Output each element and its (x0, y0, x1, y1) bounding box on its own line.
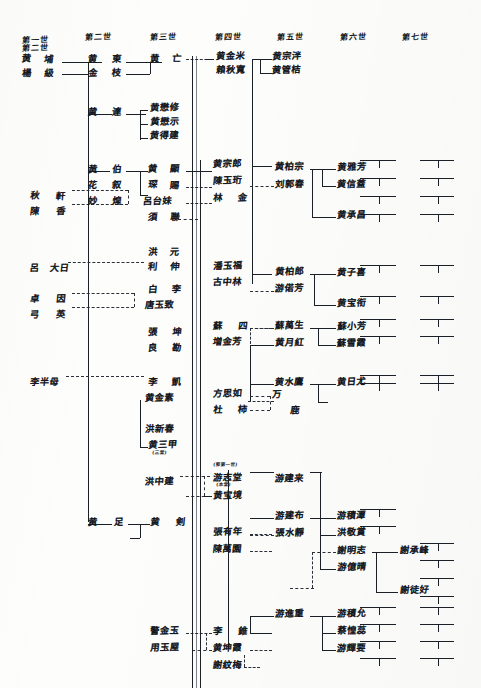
branch-stub-bar (420, 319, 454, 320)
annotation-note: (本堂) (216, 484, 231, 489)
name-cell: 黄懋修 (150, 103, 180, 113)
name-cell: 黄水鷹 (274, 378, 304, 388)
name-cell: 英 (56, 310, 67, 319)
name-cell: 杜 (213, 406, 224, 415)
branch-stub-tick (438, 624, 439, 632)
name-cell: 黄 (149, 54, 160, 63)
branch-stub-bar (360, 319, 396, 320)
name-cell: 卓 (30, 295, 41, 304)
name-cell: 凱 (171, 378, 182, 388)
branch-stub-tick (438, 214, 439, 222)
branch-stub-tick (438, 375, 439, 383)
name-cell: 游積潭 (336, 511, 366, 521)
name-cell: 張有年 (213, 527, 243, 537)
branch-stub (420, 641, 454, 650)
branch-stub-bar (420, 560, 454, 561)
name-cell: 游志堂 (212, 473, 242, 483)
name-cell: 張 (148, 328, 159, 337)
name-cell: 黄 (87, 55, 98, 64)
name-cell: 陳 (29, 207, 40, 216)
branch-stub-tick (438, 196, 439, 204)
branch-stub (420, 607, 454, 616)
branch-stub (420, 196, 454, 205)
name-cell: 大日 (49, 264, 69, 273)
name-cell: 黄宝衔 (337, 299, 367, 309)
name-cell: 黄宗郎 (212, 159, 242, 169)
name-cell: 弓 (29, 311, 40, 320)
name-cell: 黄柏郎 (275, 267, 305, 277)
generation-header: 第七世 (402, 32, 430, 41)
name-cell: 黄信蓋 (336, 180, 366, 189)
name-cell: 洪敬賞 (336, 528, 366, 538)
genealogy-chart-sheet: 第一世第二世第二世第三世第四世第五世第六世第七世 (0, 0, 481, 688)
name-cell: 蘇 (213, 322, 224, 331)
name-cell: 顯 (170, 165, 181, 174)
name-cell: 利 (147, 263, 158, 272)
name-cell: 黄三甲 (148, 440, 178, 450)
name-cell: 増金芳 (212, 337, 242, 347)
name-cell: 黄管桔 (271, 65, 301, 75)
name-cell: 刘郭春 (275, 180, 305, 190)
name-cell: 白 (148, 285, 159, 295)
name-cell: 黄懋示 (150, 118, 180, 127)
branch-stub-bar (420, 641, 454, 642)
branch-stub-tick (438, 560, 439, 568)
branch-stub (420, 624, 454, 633)
generation-header: 第二世 (85, 32, 113, 41)
branch-stub-tick (379, 296, 380, 304)
name-cell: 游積允 (337, 609, 367, 619)
name-cell: 唐玉致 (144, 301, 174, 311)
name-cell: 級 (44, 69, 55, 78)
branch-stub-tick (438, 383, 439, 391)
branch-stub-bar (420, 658, 454, 659)
name-cell: 元 (169, 248, 180, 257)
name-cell: 游進重 (274, 609, 304, 619)
name-cell: 埔 (43, 55, 54, 64)
branch-stub-tick (379, 658, 380, 666)
name-cell: 黄 (87, 518, 98, 527)
name-cell: 煌 (112, 197, 123, 206)
name-cell: 黄雅芳 (337, 163, 367, 173)
name-cell: 剣 (175, 518, 186, 527)
branch-stub (420, 160, 454, 169)
branch-stub-tick (438, 319, 439, 327)
name-cell: 錐 (238, 627, 249, 636)
branch-stub-bar (420, 578, 454, 579)
branch-stub-bar (360, 196, 396, 197)
branch-stub-tick (438, 296, 439, 304)
name-cell: 黄得建 (149, 131, 179, 141)
branch-stub-tick (438, 160, 439, 168)
branch-stub-bar (420, 160, 454, 161)
name-cell: 黄日尤 (336, 377, 366, 387)
name-cell: 林 (213, 194, 224, 203)
name-cell: 黄柏宗 (274, 162, 304, 171)
branch-stub-bar (420, 178, 454, 179)
branch-stub-tick (438, 607, 439, 615)
name-cell: 李半母 (29, 378, 59, 387)
branch-stub-tick (438, 178, 439, 186)
branch-stub-bar (420, 607, 454, 608)
branch-stub-tick (438, 265, 439, 273)
branch-stub-bar (420, 624, 454, 625)
name-cell: 游億晴 (337, 563, 367, 573)
name-cell: 秋 (30, 191, 41, 200)
name-cell: 游偌芳 (274, 284, 304, 294)
branch-stub-tick (379, 624, 380, 632)
branch-stub-tick (379, 375, 380, 383)
branch-stub-tick (438, 578, 439, 586)
branch-stub (420, 383, 454, 392)
branch-stub-bar (360, 265, 396, 266)
name-cell: 黄承昌 (337, 211, 367, 221)
name-cell: 賴秋寬 (216, 65, 246, 75)
name-cell: 足 (114, 518, 125, 527)
name-cell: 黄金米 (215, 52, 245, 62)
name-cell: 洪 (148, 248, 159, 257)
branch-stub-tick (438, 641, 439, 649)
name-cell: 游建来 (274, 474, 304, 483)
branch-stub-tick (379, 641, 380, 649)
branch-stub-tick (379, 160, 380, 168)
name-cell: 謝明志 (337, 546, 367, 556)
name-cell: 妙 (88, 197, 99, 206)
name-cell: 謝承峰 (399, 546, 429, 555)
name-cell: 蘇小芳 (337, 322, 367, 332)
